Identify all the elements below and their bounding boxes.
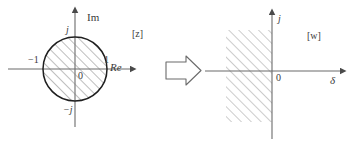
complex-plane-mapping-figure: Im Re j −j −1 1 0 [z] j δ 0 [w] bbox=[0, 0, 359, 146]
w-plane-title: [w] bbox=[307, 31, 321, 41]
figure-canvas bbox=[0, 0, 359, 146]
z-plane-tick-label-minus-one: −1 bbox=[28, 55, 39, 65]
transform-arrow-icon bbox=[166, 56, 201, 85]
z-plane-origin-label: 0 bbox=[78, 71, 83, 81]
w-plane-delta-axis-label: δ bbox=[330, 75, 335, 86]
w-plane-j-axis-label: j bbox=[278, 14, 281, 24]
z-plane-real-axis-label: Re bbox=[110, 62, 122, 73]
z-plane-tick-label-one: 1 bbox=[104, 55, 109, 65]
z-plane-title: [z] bbox=[132, 29, 143, 39]
w-plane-halfplane-region bbox=[226, 30, 272, 122]
w-plane-origin-label: 0 bbox=[276, 73, 281, 83]
z-plane-imaginary-axis-label: Im bbox=[87, 12, 99, 23]
z-plane-tick-label-minus-j: −j bbox=[63, 105, 73, 115]
z-plane-tick-label-j: j bbox=[66, 25, 69, 35]
